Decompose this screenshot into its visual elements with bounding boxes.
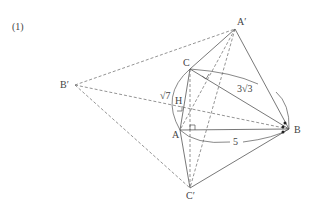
angle-dot-1	[284, 122, 287, 125]
label-A: A	[172, 129, 180, 140]
arc-CB-3sqrt3-upper	[190, 69, 258, 84]
dashed-B-prime-A-prime	[75, 29, 235, 85]
arc-CB-3sqrt3-lower	[276, 92, 289, 129]
measure-CA: √7	[160, 90, 171, 101]
angle-dot-3	[282, 131, 285, 134]
edge-C-prime-B	[190, 129, 289, 188]
label-C-prime: C′	[186, 190, 195, 200]
edge-A-prime-C	[190, 29, 235, 69]
edge-A-prime-B	[235, 29, 289, 129]
angle-dot-2	[282, 126, 285, 129]
label-A-prime: A′	[237, 16, 246, 27]
dashed-A-prime-C-prime-1	[190, 29, 235, 188]
edge-A-C-prime	[180, 130, 190, 188]
label-B: B	[294, 124, 301, 135]
label-B-prime: B′	[60, 79, 69, 90]
problem-number: (1)	[12, 21, 24, 33]
measure-AB: 5	[233, 136, 238, 147]
geometry-diagram: (1) A′ C B′ H A B C′ 3√3 5 √7	[0, 0, 316, 200]
label-H: H	[175, 95, 182, 106]
label-C: C	[183, 57, 190, 68]
edge-A-B	[180, 129, 289, 130]
measure-CB: 3√3	[237, 83, 253, 94]
right-angle-mark-A	[190, 125, 195, 130]
